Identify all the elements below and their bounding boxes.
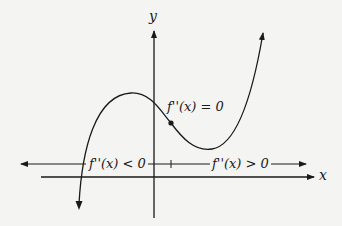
- function-curve: [79, 33, 263, 204]
- inflection-label: f''(x) = 0: [167, 100, 224, 113]
- curve-bottom-arrow: [76, 201, 83, 210]
- x-axis-label: x: [319, 168, 327, 182]
- right-interval-label: f''(x) > 0: [210, 157, 271, 170]
- y-axis-label: y: [149, 9, 157, 23]
- concavity-diagram: y x f''(x) = 0 f''(x) < 0 f''(x) > 0: [0, 0, 342, 226]
- left-interval-label: f''(x) < 0: [87, 157, 148, 170]
- inflection-point-dot: [168, 120, 173, 125]
